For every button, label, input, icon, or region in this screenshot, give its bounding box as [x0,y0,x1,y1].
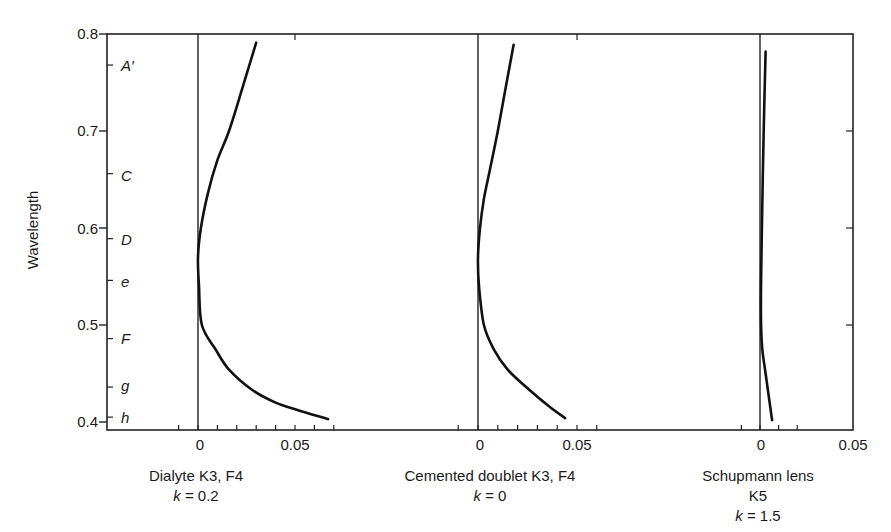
panel3-x-tick-0: 0 [757,436,765,453]
spectral-line-F: F [121,330,130,347]
y-tick-0.8: 0.8 [58,25,98,42]
k-symbol: k [173,487,181,504]
spectral-line-g: g [121,377,129,394]
curve-panel-3 [761,52,772,421]
panel2-x-tick-0: 0 [476,436,484,453]
curve-panel-1 [198,43,328,419]
panel3-title: Schupmann lens K5 [692,466,825,506]
y-tick-0.7: 0.7 [58,122,98,139]
panel3-k-value: k = 1.5 [692,506,825,526]
y-tick-0.5: 0.5 [58,316,98,333]
spectral-line-A-prime: A′ [121,57,134,74]
panel1-caption: Dialyte K3, F4 k = 0.2 [149,466,243,506]
curve-panel-2 [478,45,565,418]
panel2-caption: Cemented doublet K3, F4 k = 0 [405,466,576,506]
plot-frame [99,34,853,430]
k-symbol: k [474,487,482,504]
y-tick-0.4: 0.4 [58,413,98,430]
panel3-x-tick-0.05: 0.05 [838,436,867,453]
panel1-x-tick-0: 0 [196,436,204,453]
panel2-k-value: k = 0 [405,486,576,506]
curves [198,43,772,420]
spectral-line-h: h [121,409,129,426]
y-axis-label: Wavelength [24,191,41,270]
panel2-x-tick-0.05: 0.05 [562,436,591,453]
panel1-x-tick-0.05: 0.05 [280,436,309,453]
k-value: = 1.5 [743,507,781,524]
panel2-title: Cemented doublet K3, F4 [405,466,576,486]
k-value: = 0 [481,487,506,504]
y-tick-0.6: 0.6 [58,220,98,237]
spectral-line-D: D [121,231,132,248]
panel1-k-value: k = 0.2 [149,486,243,506]
panel1-title: Dialyte K3, F4 [149,466,243,486]
spectral-line-C: C [121,167,132,184]
k-value: = 0.2 [181,487,219,504]
spectral-line-e: e [121,273,129,290]
panel3-caption: Schupmann lens K5 k = 1.5 [692,466,825,526]
